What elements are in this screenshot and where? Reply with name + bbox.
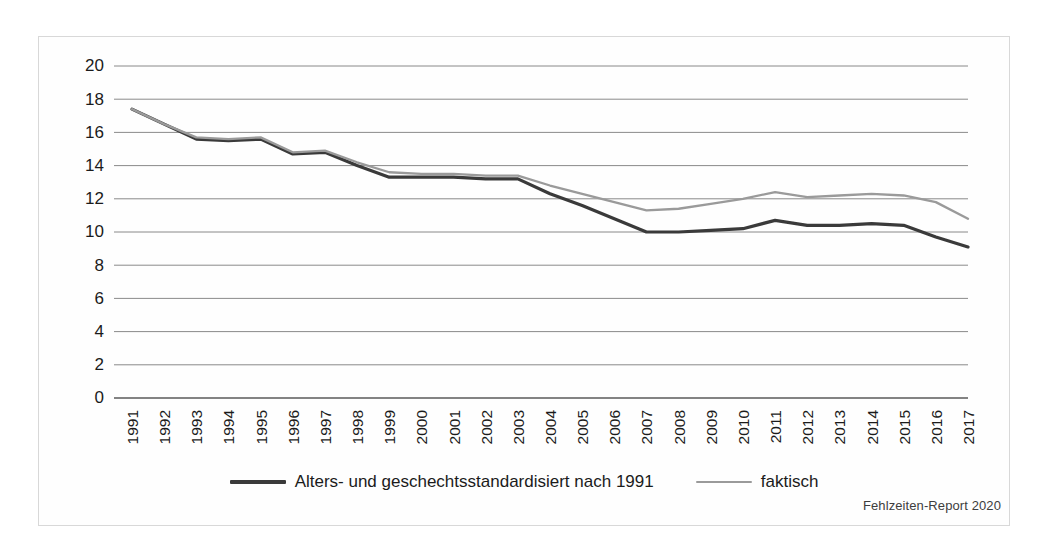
y-axis-tick-label: 0 [95, 388, 104, 407]
x-axis-tick-label: 1992 [156, 410, 173, 444]
legend-label-standardisiert: Alters- und geschechtsstandardisiert nac… [295, 472, 654, 492]
x-axis-tick-label: 2005 [574, 410, 591, 444]
figure-page: 02468101214161820 1991199219931994199519… [0, 0, 1059, 560]
x-axis-tick-label: 2007 [638, 410, 655, 444]
x-axis-tick-label: 1997 [317, 410, 334, 444]
legend-label-faktisch: faktisch [761, 472, 819, 492]
line-swatch-light-icon [696, 481, 752, 483]
y-axis-tick-label: 18 [85, 90, 104, 109]
x-axis-tick-label: 2014 [864, 410, 881, 445]
y-axis-tick-label: 16 [85, 123, 104, 142]
x-axis-tick-label: 1991 [124, 410, 141, 444]
x-axis-tick-label: 2003 [510, 410, 527, 444]
line-swatch-dark-icon [230, 480, 286, 483]
x-axis-tick-label: 2015 [896, 410, 913, 444]
x-axis-tick-label: 1994 [220, 410, 237, 445]
x-axis-tick-label: 2004 [542, 410, 559, 445]
x-axis-tick-label: 1993 [188, 410, 205, 444]
x-axis-tick-label: 2000 [413, 410, 430, 445]
x-axis-tick-labels: 1991199219931994199519961997199819992000… [124, 410, 977, 445]
x-axis-tick-label: 2002 [478, 410, 495, 444]
legend-entry-faktisch: faktisch [696, 472, 819, 492]
y-axis-tick-label: 4 [95, 322, 104, 341]
x-axis-tick-label: 1996 [285, 410, 302, 444]
y-axis-tick-label: 8 [95, 256, 104, 275]
gridlines [114, 66, 968, 398]
y-axis-tick-label: 20 [85, 56, 104, 75]
series-lines [132, 109, 968, 247]
series-line-standardisiert [132, 109, 968, 247]
x-axis-tick-label: 2008 [671, 410, 688, 444]
x-axis-tick-label: 2016 [928, 410, 945, 444]
y-axis-tick-label: 14 [85, 156, 104, 175]
x-axis-tick-label: 1999 [381, 410, 398, 444]
x-axis-tick-label: 2017 [960, 410, 977, 444]
y-axis-tick-label: 2 [95, 355, 104, 374]
series-line-faktisch [132, 109, 968, 219]
y-axis-tick-label: 10 [85, 222, 104, 241]
x-axis-tick-label: 2006 [606, 410, 623, 444]
x-axis-tick-label: 2013 [831, 410, 848, 444]
source-note: Fehlzeiten-Report 2020 [863, 498, 1001, 513]
x-axis-tick-label: 2009 [703, 410, 720, 444]
x-axis-tick-label: 2011 [767, 410, 784, 443]
x-axis-tick-label: 2001 [446, 410, 463, 444]
x-axis-tick-label: 2010 [735, 410, 752, 445]
x-axis-tick-label: 1995 [253, 410, 270, 444]
x-axis-tick-label: 2012 [799, 410, 816, 444]
y-axis-tick-label: 6 [95, 289, 104, 308]
x-axis-tick-label: 1998 [349, 410, 366, 444]
chart-legend: Alters- und geschechtsstandardisiert nac… [38, 467, 1010, 497]
legend-entry-standardisiert: Alters- und geschechtsstandardisiert nac… [230, 472, 654, 492]
y-axis-tick-label: 12 [85, 189, 104, 208]
y-axis-tick-labels: 02468101214161820 [85, 56, 104, 407]
